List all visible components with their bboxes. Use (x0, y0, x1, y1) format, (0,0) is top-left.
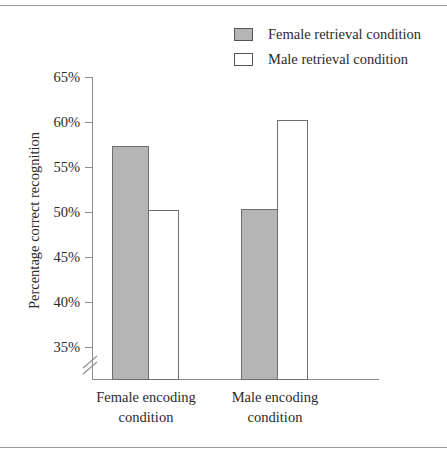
y-tick-65 (85, 77, 93, 78)
y-axis-break-icon (79, 352, 105, 378)
y-tick-label-55: 55% (34, 160, 80, 175)
y-tick-label-50: 50% (34, 205, 80, 220)
y-tick-60 (85, 122, 93, 123)
y-tick-label-35: 35% (34, 340, 80, 355)
x-category-label-male-encoding-line2: condition (190, 408, 360, 428)
y-tick-label-65: 65% (34, 70, 80, 85)
x-category-label-male-encoding-line1: Male encoding (190, 388, 360, 408)
y-tick-label-45: 45% (34, 250, 80, 265)
y-tick-45 (85, 257, 93, 258)
y-tick-35 (85, 347, 93, 348)
x-category-label-male-encoding: Male encoding condition (190, 388, 360, 427)
y-tick-50 (85, 212, 93, 213)
y-tick-55 (85, 167, 93, 168)
plot-area: Percentage correct recognition 65% 60% 5… (0, 0, 447, 455)
bar-female-encoding-female-retrieval (112, 146, 149, 380)
y-tick-40 (85, 302, 93, 303)
bar-female-encoding-male-retrieval (148, 210, 179, 380)
bar-male-encoding-female-retrieval (241, 209, 278, 380)
bar-male-encoding-male-retrieval (277, 120, 308, 380)
chart-figure: Female retrieval condition Male retrieva… (0, 0, 447, 455)
y-tick-label-60: 60% (34, 115, 80, 130)
y-tick-label-40: 40% (34, 295, 80, 310)
